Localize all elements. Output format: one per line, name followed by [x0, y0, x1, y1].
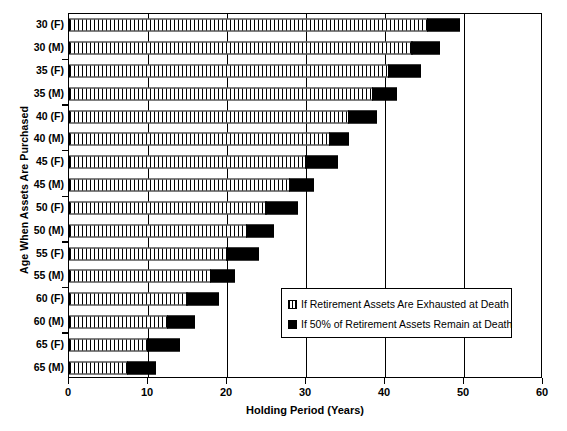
bar-segment-remain: [411, 42, 440, 55]
bar-segment-exhausted: [69, 156, 306, 169]
bar-segment-remain: [348, 110, 377, 123]
bar-segment-exhausted: [69, 338, 148, 351]
x-axis-title: Holding Period (Years): [68, 404, 542, 416]
x-tick-label: 60: [522, 386, 562, 398]
bar-row: [69, 201, 298, 214]
bar-row: [69, 224, 274, 237]
y-tick-label: 60 (M): [6, 315, 64, 327]
y-tick-label: 55 (F): [6, 247, 64, 259]
x-tick-40: [384, 378, 385, 384]
x-tick-label: 10: [127, 386, 167, 398]
bar-row: [69, 156, 338, 169]
bar-segment-exhausted: [69, 42, 413, 55]
bar-row: [69, 315, 195, 328]
x-tick-label: 50: [443, 386, 483, 398]
bar-segment-exhausted: [69, 247, 227, 260]
y-minor-tick: [62, 287, 69, 289]
bar-segment-remain: [167, 315, 196, 328]
bar-segment-exhausted: [69, 315, 168, 328]
solid-swatch-icon: [288, 320, 297, 329]
bar-segment-remain: [186, 293, 219, 306]
bar-row: [69, 42, 440, 55]
x-tick-label: 0: [48, 386, 88, 398]
legend-item-exhausted: If Retirement Assets Are Exhausted at De…: [288, 294, 505, 314]
bar-segment-remain: [427, 19, 460, 32]
bar-segment-exhausted: [69, 270, 211, 283]
y-tick-label: 30 (F): [6, 18, 64, 30]
y-tick-label: 55 (M): [6, 269, 64, 281]
bar-segment-exhausted: [69, 201, 267, 214]
bar-segment-exhausted: [69, 87, 373, 100]
y-tick-label: 40 (F): [6, 110, 64, 122]
y-tick-label: 65 (M): [6, 361, 64, 373]
bar-segment-exhausted: [69, 224, 247, 237]
x-tick-0: [68, 378, 69, 384]
bar-row: [69, 19, 460, 32]
bar-row: [69, 87, 397, 100]
y-minor-tick: [62, 241, 69, 243]
bar-segment-remain: [372, 87, 397, 100]
y-tick-label: 30 (M): [6, 41, 64, 53]
bar-row: [69, 247, 259, 260]
x-tick-label: 30: [285, 386, 325, 398]
y-tick-label: 50 (F): [6, 201, 64, 213]
bar-segment-exhausted: [69, 179, 290, 192]
y-tick-label: 35 (M): [6, 87, 64, 99]
bar-segment-remain: [388, 65, 421, 78]
bar-segment-remain: [127, 361, 156, 374]
y-tick-label: 35 (F): [6, 64, 64, 76]
bar-segment-exhausted: [69, 293, 188, 306]
bar-segment-remain: [289, 179, 314, 192]
y-tick-label: 50 (M): [6, 224, 64, 236]
y-minor-tick: [62, 332, 69, 334]
bar-row: [69, 133, 349, 146]
bar-row: [69, 179, 314, 192]
bar-segment-remain: [329, 133, 350, 146]
bar-segment-remain: [147, 338, 180, 351]
x-tick-60: [542, 378, 543, 384]
bar-segment-remain: [305, 156, 338, 169]
legend-label-exhausted: If Retirement Assets Are Exhausted at De…: [301, 298, 509, 310]
bar-segment-exhausted: [69, 361, 128, 374]
hatched-swatch-icon: [288, 300, 297, 309]
bar-chart: Age When Assets Are Purchased 30 (F)30 (…: [0, 0, 567, 431]
bar-row: [69, 65, 421, 78]
bar-segment-exhausted: [69, 65, 389, 78]
bar-segment-exhausted: [69, 110, 349, 123]
y-minor-tick: [62, 150, 69, 152]
bar-row: [69, 338, 180, 351]
chart-legend: If Retirement Assets Are Exhausted at De…: [281, 288, 512, 338]
x-tick-label: 40: [364, 386, 404, 398]
x-tick-10: [147, 378, 148, 384]
x-tick-20: [226, 378, 227, 384]
bar-row: [69, 270, 235, 283]
y-minor-tick: [62, 196, 69, 198]
x-tick-50: [463, 378, 464, 384]
bar-segment-remain: [265, 201, 298, 214]
bar-segment-exhausted: [69, 19, 428, 32]
y-tick-label: 60 (F): [6, 292, 64, 304]
y-minor-tick: [62, 104, 69, 106]
legend-label-remain: If 50% of Retirement Assets Remain at De…: [301, 318, 512, 330]
y-tick-label: 45 (F): [6, 155, 64, 167]
legend-item-remain: If 50% of Retirement Assets Remain at De…: [288, 314, 505, 334]
x-tick-label: 20: [206, 386, 246, 398]
bar-segment-remain: [210, 270, 235, 283]
bar-segment-remain: [226, 247, 259, 260]
bar-row: [69, 361, 156, 374]
y-tick-label: 40 (M): [6, 132, 64, 144]
bar-segment-remain: [246, 224, 275, 237]
y-minor-tick: [62, 59, 69, 61]
bar-row: [69, 110, 377, 123]
y-tick-label: 65 (F): [6, 338, 64, 350]
x-tick-30: [305, 378, 306, 384]
y-tick-label: 45 (M): [6, 178, 64, 190]
bar-row: [69, 293, 219, 306]
bar-segment-exhausted: [69, 133, 330, 146]
y-axis-tick-labels: 30 (F)30 (M)35 (F)35 (M)40 (F)40 (M)45 (…: [6, 13, 64, 378]
